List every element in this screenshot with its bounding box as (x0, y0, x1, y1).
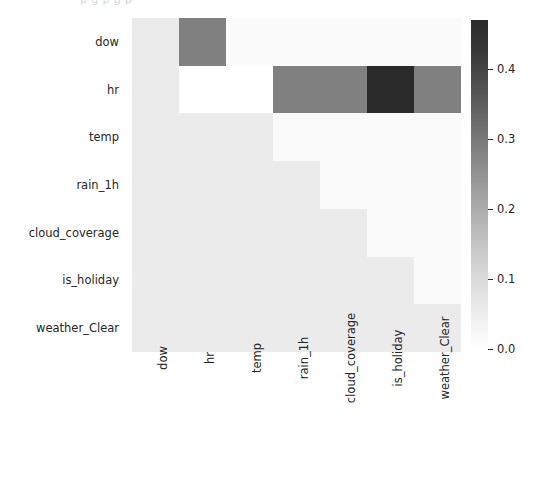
x-tick-label-text: rain_1h (297, 337, 311, 380)
colorbar-tick-text: 0.2 (497, 202, 515, 216)
colorbar-tick-mark (488, 209, 493, 210)
heatmap-cell (367, 161, 414, 209)
x-tick-label-is_holiday: is_holiday (367, 352, 414, 477)
heatmap-cell (273, 257, 320, 305)
x-tick-label-cloud_coverage: cloud_coverage (320, 352, 367, 477)
x-tick-label-weather_Clear: weather_Clear (414, 352, 461, 477)
colorbar-tick-mark (488, 139, 493, 140)
y-tick-label-hr: hr (0, 66, 126, 114)
heatmap-cell (226, 257, 273, 305)
heatmap-figure: p g p g p dowhrtemprain_1hcloud_coverage… (0, 0, 535, 485)
colorbar-tick-text: 0.3 (497, 132, 515, 146)
heatmap-cell (320, 209, 367, 257)
heatmap-cell (273, 66, 320, 114)
heatmap-cell (132, 66, 179, 114)
colorbar-tick-text: 0.1 (497, 272, 515, 286)
heatmap-cell (414, 257, 461, 305)
x-tick-label-text: hr (203, 352, 217, 364)
y-axis-tick-labels: dowhrtemprain_1hcloud_coverageis_holiday… (0, 18, 126, 352)
heatmap-cell (273, 209, 320, 257)
colorbar-tick-labels: 0.00.10.20.30.4 (488, 20, 533, 349)
heatmap-cell (320, 66, 367, 114)
x-tick-label-text: is_holiday (391, 330, 405, 387)
heatmap-cell (179, 304, 226, 352)
heatmap-cell (414, 113, 461, 161)
colorbar-gradient (471, 20, 488, 349)
heatmap-cell (179, 209, 226, 257)
y-tick-label-rain_1h: rain_1h (0, 161, 126, 209)
x-tick-label-text: temp (250, 343, 264, 373)
x-tick-label-dow: dow (132, 352, 179, 477)
heatmap-cell (367, 66, 414, 114)
heatmap-cell-grid (132, 18, 461, 352)
x-tick-label-rain_1h: rain_1h (273, 352, 320, 477)
heatmap-cell (414, 18, 461, 66)
heatmap-cell (132, 161, 179, 209)
colorbar-tick-mark (488, 279, 493, 280)
heatmap-cell (367, 257, 414, 305)
heatmap-cell (132, 18, 179, 66)
y-tick-label-temp: temp (0, 113, 126, 161)
y-tick-label-weather_Clear: weather_Clear (0, 304, 126, 352)
heatmap-cell (226, 161, 273, 209)
heatmap-cell (226, 18, 273, 66)
heatmap-cell (320, 18, 367, 66)
colorbar-tick-mark (488, 69, 493, 70)
heatmap-cell (179, 18, 226, 66)
heatmap-cell (367, 18, 414, 66)
colorbar (471, 20, 488, 349)
heatmap-cell (367, 209, 414, 257)
heatmap-cell (132, 304, 179, 352)
x-axis-tick-labels: dowhrtemprain_1hcloud_coverageis_holiday… (132, 352, 461, 477)
heatmap-cell (179, 66, 226, 114)
heatmap-plot-area (132, 18, 461, 352)
heatmap-cell (414, 66, 461, 114)
heatmap-cell (179, 161, 226, 209)
heatmap-cell (179, 257, 226, 305)
heatmap-cell (226, 66, 273, 114)
y-tick-label-dow: dow (0, 18, 126, 66)
heatmap-cell (132, 113, 179, 161)
x-tick-label-hr: hr (179, 352, 226, 477)
x-tick-label-text: dow (156, 346, 170, 370)
heatmap-cell (320, 257, 367, 305)
colorbar-tick-text: 0.0 (497, 342, 515, 356)
heatmap-cell (273, 18, 320, 66)
heatmap-cell (132, 257, 179, 305)
heatmap-cell (414, 209, 461, 257)
x-tick-label-text: weather_Clear (438, 317, 452, 400)
y-tick-label-is_holiday: is_holiday (0, 257, 126, 305)
heatmap-cell (367, 113, 414, 161)
heatmap-cell (273, 113, 320, 161)
y-tick-label-cloud_coverage: cloud_coverage (0, 209, 126, 257)
colorbar-tick-mark (488, 349, 493, 350)
heatmap-cell (320, 113, 367, 161)
heatmap-cell (320, 161, 367, 209)
heatmap-cell (226, 113, 273, 161)
colorbar-tick-text: 0.4 (497, 62, 515, 76)
heatmap-cell (179, 113, 226, 161)
heatmap-cell (226, 209, 273, 257)
heatmap-cell (273, 161, 320, 209)
x-tick-label-text: cloud_coverage (344, 313, 358, 403)
clipped-title-text: p g p g p (80, 0, 460, 5)
x-tick-label-temp: temp (226, 352, 273, 477)
heatmap-cell (414, 161, 461, 209)
heatmap-cell (132, 209, 179, 257)
